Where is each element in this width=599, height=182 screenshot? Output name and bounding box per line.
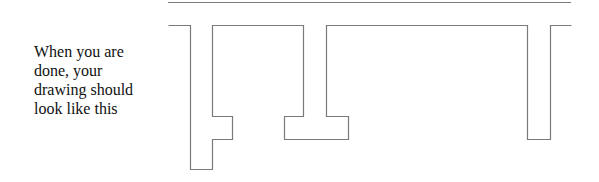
target-drawing <box>0 0 599 182</box>
drawing-outline <box>169 26 572 170</box>
